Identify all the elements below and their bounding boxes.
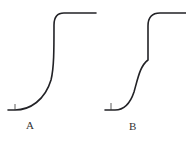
panel-label-b: B <box>129 121 136 132</box>
panel-b <box>105 13 186 110</box>
panel-label-a: A <box>26 120 34 131</box>
curve-b <box>105 13 186 110</box>
curve-a <box>8 13 96 110</box>
panel-a <box>8 13 96 110</box>
